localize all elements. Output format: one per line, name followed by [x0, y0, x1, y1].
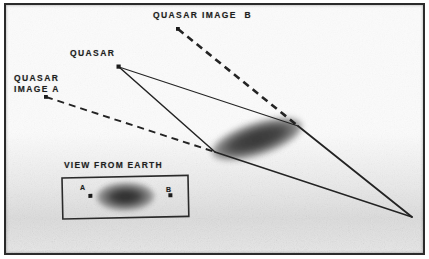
quasar-image-a-dot — [44, 95, 48, 99]
inset-image-a-dot — [88, 194, 92, 198]
lensing-galaxy — [207, 109, 306, 168]
quasar-dot — [117, 65, 121, 69]
ray-lens-near-to-earth — [215, 152, 412, 217]
sightline-image-b — [178, 29, 298, 126]
quasar-image-b-dot — [176, 27, 180, 31]
label-view-from-earth: VIEW FROM EARTH — [64, 160, 163, 171]
lensing-diagram — [6, 5, 425, 255]
ray-lens-far-to-earth — [298, 126, 412, 217]
label-inset-image-a: A — [80, 183, 86, 194]
inset-view-from-earth — [62, 175, 189, 219]
ray-quasar-to-lens-far — [119, 67, 298, 126]
inset-galaxy — [96, 182, 155, 211]
label-inset-image-b: B — [166, 185, 172, 196]
label-quasar-image-b: QUASAR IMAGE B — [153, 10, 252, 21]
ray-quasar-to-lens-near — [119, 67, 215, 152]
label-quasar: QUASAR — [70, 48, 115, 59]
figure-root: QUASAR IMAGE B QUASAR QUASAR IMAGE A VIE… — [0, 0, 429, 259]
figure-frame: QUASAR IMAGE B QUASAR QUASAR IMAGE A VIE… — [4, 3, 425, 255]
label-quasar-image-a: QUASAR IMAGE A — [14, 73, 60, 94]
point-markers — [44, 27, 180, 99]
sightline-image-a — [46, 97, 215, 152]
